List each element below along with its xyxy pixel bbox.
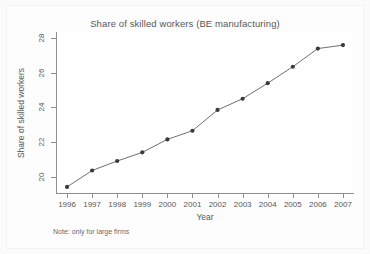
x-tick-label: 2001 (184, 200, 202, 209)
y-tick-mark (51, 107, 56, 108)
y-tick-label: 24 (37, 103, 46, 112)
y-tick-mark (51, 73, 56, 74)
x-tick-label: 2003 (234, 200, 252, 209)
x-tick-mark (67, 194, 68, 198)
x-tick-mark (192, 194, 193, 198)
x-tick-mark (343, 194, 344, 198)
x-tick-label: 1999 (133, 200, 151, 209)
x-tick-mark (142, 194, 143, 198)
y-tick-label-container: 24 (34, 102, 48, 112)
x-tick-mark (318, 194, 319, 198)
x-tick-label: 1998 (108, 200, 126, 209)
chart-note: Note: only for large firms (53, 228, 129, 235)
y-tick-label: 22 (37, 138, 46, 147)
y-tick-label: 20 (37, 172, 46, 181)
y-tick-label-container: 28 (34, 33, 48, 43)
y-axis-line (56, 32, 57, 194)
plot-area (57, 33, 353, 193)
y-tick-label-container: 26 (34, 68, 48, 78)
x-tick-label: 2002 (209, 200, 227, 209)
x-tick-mark (218, 194, 219, 198)
x-tick-mark (243, 194, 244, 198)
y-tick-label: 26 (37, 68, 46, 77)
y-axis-title: Share of skilled workers (16, 68, 26, 158)
x-tick-label: 2000 (158, 200, 176, 209)
x-tick-mark (92, 194, 93, 198)
chart-figure: Share of skilled workers (BE manufacturi… (0, 0, 370, 254)
x-tick-label: 2004 (259, 200, 277, 209)
y-tick-mark (51, 177, 56, 178)
y-tick-mark (51, 142, 56, 143)
x-tick-mark (293, 194, 294, 198)
x-tick-label: 2005 (284, 200, 302, 209)
x-tick-mark (167, 194, 168, 198)
y-tick-label-container: 20 (34, 172, 48, 182)
y-axis-title-container: Share of skilled workers (14, 33, 28, 193)
x-tick-mark (268, 194, 269, 198)
x-axis-title: Year (57, 212, 353, 222)
x-tick-label: 1996 (58, 200, 76, 209)
chart-title: Share of skilled workers (BE manufacturi… (0, 18, 370, 29)
x-tick-label: 2007 (334, 200, 352, 209)
x-tick-label: 2006 (309, 200, 327, 209)
y-tick-label-container: 22 (34, 137, 48, 147)
x-tick-mark (117, 194, 118, 198)
y-tick-mark (51, 38, 56, 39)
x-axis-line (56, 193, 354, 194)
x-tick-label: 1997 (83, 200, 101, 209)
y-tick-label: 28 (37, 34, 46, 43)
